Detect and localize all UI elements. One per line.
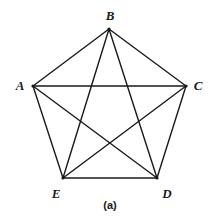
- graph-edge-ad: [33, 86, 157, 178]
- graph-vertex-a: [31, 84, 34, 87]
- graph-edge-ce: [63, 86, 186, 178]
- graph-edge-bc: [109, 29, 186, 86]
- graph-vertex-e: [61, 176, 64, 179]
- graph-vertex-d: [155, 176, 158, 179]
- figure-caption: (a): [103, 200, 116, 211]
- vertex-label-c: C: [194, 79, 203, 92]
- graph-edge-ea: [33, 86, 63, 178]
- graph-edge-bd: [109, 29, 157, 178]
- graph-drawing: [0, 0, 216, 219]
- graph-edge-be: [63, 29, 109, 178]
- figure-container: ABCDE (a): [0, 0, 216, 219]
- vertex-label-b: B: [106, 9, 115, 22]
- graph-edge-ab: [33, 29, 109, 86]
- graph-vertex-b: [107, 27, 110, 30]
- graph-edge-cd: [157, 86, 186, 178]
- vertex-label-e: E: [52, 187, 61, 200]
- vertex-label-d: D: [162, 187, 171, 200]
- vertex-label-a: A: [16, 79, 25, 92]
- edge-layer: [33, 29, 186, 178]
- graph-vertex-c: [184, 84, 187, 87]
